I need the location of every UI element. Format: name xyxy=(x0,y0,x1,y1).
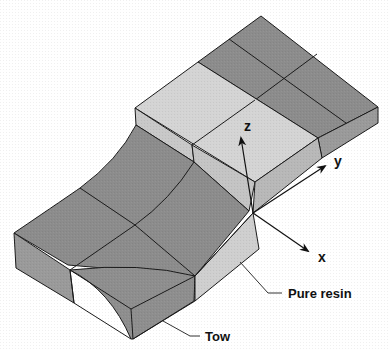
z-axis-label: z xyxy=(244,118,251,134)
tow-leader xyxy=(163,321,200,336)
pure-resin-leader xyxy=(240,262,282,293)
tow-label: Tow xyxy=(205,329,231,344)
pure-resin-label: Pure resin xyxy=(288,286,352,301)
x-axis-label: x xyxy=(318,249,326,265)
y-axis-label: y xyxy=(334,153,342,169)
composite-diagram: z y x Pure resin Tow xyxy=(0,0,388,351)
x-axis xyxy=(253,213,308,251)
